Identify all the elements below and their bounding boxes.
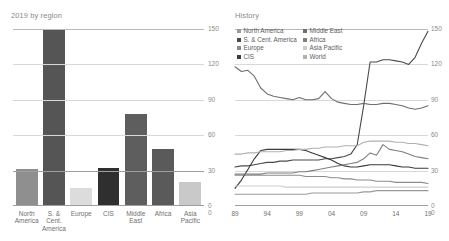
y-axis-tick-label: 30 — [208, 168, 215, 175]
gridline-emphasis — [13, 171, 204, 172]
legend-swatch-icon — [237, 55, 241, 59]
x-axis-tick-label: 14 — [386, 210, 406, 217]
legend-swatch-icon — [303, 46, 307, 50]
line-chart-legend: North AmericaMiddle EastS. & Cent. Ameri… — [237, 27, 387, 61]
gridline — [13, 64, 204, 65]
line-series-path — [235, 141, 428, 154]
bar — [43, 29, 65, 206]
legend-item-label: Middle East — [310, 28, 343, 34]
y-axis-tick-label: 90 — [431, 97, 438, 104]
legend-item[interactable]: CIS — [237, 53, 303, 62]
y-axis-tick-label: 150 — [208, 26, 219, 33]
x-axis-tick-label: 19 — [418, 210, 438, 217]
bar — [179, 182, 201, 206]
x-axis-tick-label: 99 — [289, 210, 309, 217]
x-axis-tick-label: Africa — [149, 210, 176, 217]
y-axis-tick-label: 120 — [208, 61, 219, 68]
bar-chart-panel: 2019 by region 1501209060300 North Ameri… — [0, 0, 225, 241]
legend-item-label: North America — [244, 28, 284, 34]
x-axis-zero-label: 0 — [431, 210, 435, 217]
legend-swatch-icon — [237, 46, 241, 50]
legend-swatch-icon — [303, 29, 307, 33]
x-axis-tick-label: 04 — [322, 210, 342, 217]
gridline — [13, 135, 204, 136]
legend-item[interactable]: North America — [237, 27, 303, 36]
legend-item[interactable]: Europe — [237, 44, 303, 53]
x-axis-tick-label: CIS — [95, 210, 122, 217]
x-axis-tick-label: Asia Pacific — [177, 210, 204, 225]
legend-item[interactable]: Asia Pacific — [303, 44, 387, 53]
bar — [152, 149, 174, 206]
line-series-path — [235, 186, 428, 187]
gridline — [13, 205, 204, 206]
bar — [16, 169, 38, 206]
bar-chart-plot-area — [13, 29, 204, 206]
legend-item-label: CIS — [244, 54, 255, 60]
legend-item[interactable]: Africa — [303, 36, 387, 45]
x-axis-tick-label: 09 — [354, 210, 374, 217]
legend-swatch-icon — [237, 38, 241, 42]
charts-container: 2019 by region 1501209060300 North Ameri… — [0, 0, 449, 241]
gridline — [13, 100, 204, 101]
y-axis-tick-label: 150 — [431, 26, 442, 33]
x-axis-tick-label: 89 — [225, 210, 245, 217]
legend-item-label: S. & Cent. America — [244, 37, 297, 43]
legend-swatch-icon — [303, 55, 307, 59]
legend-item-label: Asia Pacific — [310, 45, 343, 51]
y-axis-tick-label: 60 — [208, 132, 215, 139]
y-axis-tick-label: 90 — [208, 97, 215, 104]
bar — [98, 168, 120, 206]
bar — [125, 114, 147, 206]
x-axis-tick-label: North America — [13, 210, 40, 225]
bar-chart-title: 2019 by region — [11, 11, 62, 20]
legend-item-label: Europe — [244, 45, 264, 51]
y-axis-zero-label: 0 — [208, 210, 212, 217]
line-series-path — [235, 67, 428, 109]
y-axis-tick-label: 30 — [431, 168, 438, 175]
legend-item[interactable]: World — [303, 53, 387, 62]
x-axis-tick-label: Middle East — [122, 210, 149, 225]
y-axis-tick-label: 120 — [431, 61, 442, 68]
line-chart-title: History — [235, 11, 259, 20]
line-chart-panel: History North AmericaMiddle EastS. & Cen… — [225, 0, 449, 241]
legend-item[interactable]: Middle East — [303, 27, 387, 36]
x-axis-tick-label: 94 — [257, 210, 277, 217]
bar-series — [13, 29, 204, 206]
legend-item-label: World — [310, 54, 326, 60]
x-axis-tick-label: S. & Cent. America — [40, 210, 67, 232]
legend-item-label: Africa — [310, 37, 326, 43]
y-axis-tick-label: 60 — [431, 132, 438, 139]
line-series-path — [235, 175, 428, 183]
bar — [70, 188, 92, 206]
legend-swatch-icon — [237, 29, 241, 33]
gridline — [13, 29, 204, 30]
legend-item[interactable]: S. & Cent. America — [237, 36, 303, 45]
line-series-path — [235, 191, 428, 195]
legend-swatch-icon — [303, 38, 307, 42]
x-axis-tick-label: Europe — [68, 210, 95, 217]
line-series-path — [235, 145, 428, 175]
